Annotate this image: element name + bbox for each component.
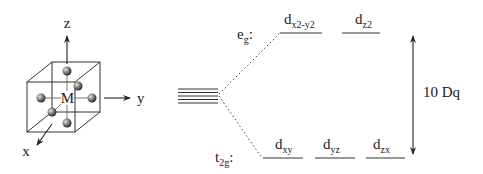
ligand-sphere-back	[74, 82, 83, 91]
connector-to-eg	[219, 33, 280, 94]
crystal-field-diagram: M z y x eg: dx2-y2 dz2 t2g: dxy dyz dzx …	[0, 0, 483, 174]
orbital-label-dx2y2: dx2-y2	[284, 11, 315, 30]
ligand-sphere-top	[63, 67, 72, 76]
ligand-sphere-right	[88, 94, 97, 103]
ligand-sphere-bottom	[63, 119, 72, 128]
eg-label: eg:	[237, 26, 253, 45]
axes	[37, 36, 130, 145]
eg-orbitals: dx2-y2 dz2	[280, 11, 380, 33]
y-axis-label: y	[137, 90, 145, 106]
connector-to-t2g	[219, 96, 262, 158]
orbital-label-dzx: dzx	[373, 136, 390, 155]
x-axis-label: x	[22, 143, 30, 159]
splitting-connectors	[219, 33, 280, 158]
ligand-sphere-left	[37, 94, 46, 103]
ligand-sphere-front	[48, 108, 57, 117]
z-axis-label: z	[64, 15, 71, 31]
orbital-label-dz2: dz2	[355, 11, 372, 30]
splitting-energy-label: 10 Dq	[423, 84, 461, 100]
degenerate-d-levels	[178, 89, 218, 103]
x-axis-arrow	[37, 124, 52, 145]
t2g-orbitals: dxy dyz dzx	[263, 136, 405, 158]
orbital-label-dxy: dxy	[275, 136, 293, 155]
metal-center-label: M	[61, 90, 74, 106]
t2g-label: t2g:	[215, 149, 233, 168]
orbital-label-dyz: dyz	[323, 136, 341, 155]
